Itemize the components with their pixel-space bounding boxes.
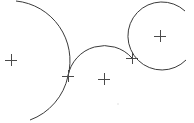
center-marker-middle-plus-icon — [98, 73, 110, 85]
arc-group — [16, 1, 186, 120]
marker-group — [5, 30, 166, 85]
diagram-canvas — [0, 0, 194, 123]
center-marker-left-plus-icon — [5, 54, 17, 66]
faint-dot — [117, 103, 119, 105]
center-marker-right-plus-icon — [154, 30, 166, 42]
right-circle-arc — [128, 2, 186, 70]
intersection-marker-left-plus-icon — [62, 70, 74, 82]
left-large-arc — [16, 1, 70, 120]
middle-arc — [68, 46, 132, 76]
